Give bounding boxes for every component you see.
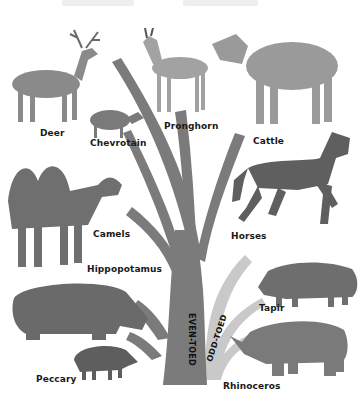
label-tapir: Tapir [259,303,285,313]
label-even-toed: EVEN-TOED [187,313,196,366]
peccary-illustration [70,340,140,382]
cattle-illustration [212,26,347,131]
tapir-illustration [256,255,361,310]
label-cattle: Cattle [253,136,284,146]
rhinoceros-illustration [226,318,352,380]
label-pronghorn: Pronghorn [164,121,218,131]
label-camels: Camels [93,229,130,239]
camels-illustration [2,145,127,270]
label-deer: Deer [40,128,65,138]
label-peccary: Peccary [36,374,76,384]
ungulate-family-tree-diagram: Deer Chevrotain Pronghorn Cattle Camels … [0,0,364,398]
label-horses: Horses [231,231,267,241]
label-hippopotamus: Hippopotamus [87,264,162,274]
hippopotamus-illustration [6,278,152,343]
label-rhinoceros: Rhinoceros [223,381,280,391]
label-chevrotain: Chevrotain [90,138,146,148]
chevrotain-illustration [86,104,146,140]
pronghorn-illustration [135,28,220,118]
horses-illustration [228,128,353,228]
